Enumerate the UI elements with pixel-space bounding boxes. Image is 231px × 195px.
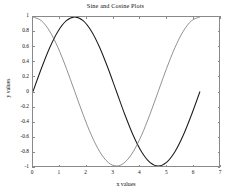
x-tick-mark-top	[59, 16, 60, 19]
y-tick-mark-right	[218, 137, 221, 138]
y-tick-mark	[32, 61, 35, 62]
y-tick-label: 0.4	[3, 59, 29, 64]
plot-canvas	[33, 17, 219, 166]
x-tick-label: 1	[52, 170, 66, 175]
x-tick-label: 3	[106, 170, 120, 175]
x-tick-mark	[193, 165, 194, 168]
y-tick-mark	[32, 137, 35, 138]
y-tick-label: -0.8	[3, 149, 29, 154]
x-axis-label: x values	[32, 181, 220, 187]
y-tick-mark-right	[218, 122, 221, 123]
y-tick-mark	[32, 167, 35, 168]
y-tick-mark	[32, 46, 35, 47]
x-tick-mark-top	[139, 16, 140, 19]
y-tick-mark	[32, 92, 35, 93]
x-tick-mark-top	[32, 16, 33, 19]
y-tick-label: -0.6	[3, 134, 29, 139]
x-tick-mark	[32, 165, 33, 168]
x-tick-label: 7	[213, 170, 227, 175]
x-tick-label: 4	[132, 170, 146, 175]
y-tick-mark-right	[218, 46, 221, 47]
y-tick-mark	[32, 76, 35, 77]
x-tick-mark-top	[220, 16, 221, 19]
x-tick-label: 5	[159, 170, 173, 175]
y-tick-mark	[32, 122, 35, 123]
y-tick-mark	[32, 31, 35, 32]
x-tick-label: 6	[186, 170, 200, 175]
chart-title: Sine and Cosine Plots	[0, 2, 231, 9]
x-tick-mark	[139, 165, 140, 168]
y-tick-label: 0.6	[3, 44, 29, 49]
y-tick-mark-right	[218, 152, 221, 153]
y-tick-mark	[32, 152, 35, 153]
chart-figure: Sine and Cosine Plots 10.80.60.40.20-0.2…	[0, 0, 231, 195]
x-tick-mark-top	[166, 16, 167, 19]
y-tick-label: -1	[3, 164, 29, 169]
y-tick-mark-right	[218, 92, 221, 93]
y-tick-label: 1	[3, 13, 29, 18]
x-tick-mark	[113, 165, 114, 168]
x-tick-label: 0	[25, 170, 39, 175]
y-tick-mark-right	[218, 76, 221, 77]
plot-area	[32, 16, 220, 167]
y-tick-mark-right	[218, 167, 221, 168]
y-tick-mark-right	[218, 61, 221, 62]
x-tick-mark-top	[86, 16, 87, 19]
y-axis-label: y values	[5, 68, 11, 108]
series-group	[33, 17, 200, 166]
x-tick-mark-top	[193, 16, 194, 19]
y-tick-label: -0.4	[3, 119, 29, 124]
y-tick-mark-right	[218, 31, 221, 32]
y-tick-label: 0.8	[3, 28, 29, 33]
x-tick-label: 2	[79, 170, 93, 175]
y-tick-mark	[32, 107, 35, 108]
y-tick-mark-right	[218, 107, 221, 108]
x-tick-mark	[86, 165, 87, 168]
x-tick-mark	[59, 165, 60, 168]
x-tick-mark-top	[113, 16, 114, 19]
x-tick-mark	[166, 165, 167, 168]
series-line-sinx	[33, 17, 200, 166]
x-tick-mark	[220, 165, 221, 168]
